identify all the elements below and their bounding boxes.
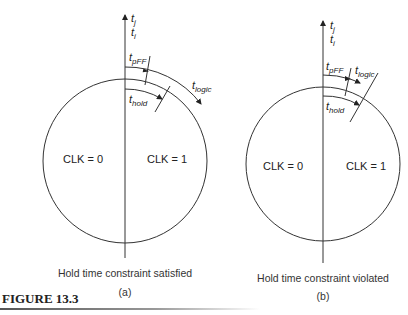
axis-label-ti: ti [330,33,335,48]
clk1-label: CLK = 1 [147,153,187,165]
caption-b: Hold time constraint violated [257,272,389,284]
figure-rule [0,308,260,310]
panel-a: tj ti tpFF tlogic thold CLK = 0 CLK = 1 … [43,12,212,298]
clk0-label: CLK = 0 [63,153,103,165]
thold-tick [155,86,170,112]
tpff-label: tpFF [129,51,147,66]
axis-label-tj: tj [131,12,136,27]
clk1-label: CLK = 1 [346,160,386,172]
axis-label-ti: ti [131,26,136,41]
hold-time-diagram: tj ti tpFF tlogic thold CLK = 0 CLK = 1 … [0,0,408,315]
tlogic-label: tlogic [355,64,375,79]
clk0-label: CLK = 0 [263,160,303,172]
thold-label: thold [129,93,148,108]
tpff-label: tpFF [326,60,344,75]
panel-b: tj ti tpFF tlogic thold CLK = 0 CLK = 1 … [246,19,400,302]
tlogic-label: tlogic [192,79,212,94]
sublabel-a: (a) [119,286,132,298]
thold-label: thold [326,100,345,115]
figure-label: FIGURE 13.3 [2,291,79,306]
sublabel-b: (b) [317,290,330,302]
axis-label-tj: tj [330,19,335,34]
tlogic-arc [350,79,360,83]
caption-a: Hold time constraint satisfied [58,267,192,279]
